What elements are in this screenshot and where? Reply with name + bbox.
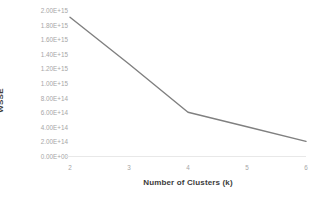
x-axis-line bbox=[66, 156, 306, 157]
y-axis-tick-label: 0.00E+00 bbox=[22, 153, 68, 160]
y-axis-tick-label: 2.00E+15 bbox=[22, 7, 68, 14]
line-chart: WSSE 0.00E+002.00E+144.00E+146.00E+148.0… bbox=[0, 0, 310, 201]
x-axis-tick-label: 4 bbox=[186, 163, 190, 172]
x-axis-title: Number of Clusters (k) bbox=[70, 178, 306, 187]
x-axis-tick-labels: 23456 bbox=[70, 163, 306, 175]
y-axis-tick-label: 1.00E+15 bbox=[22, 80, 68, 87]
y-axis-tick-label: 1.80E+15 bbox=[22, 21, 68, 28]
x-axis-tick-label: 3 bbox=[127, 163, 131, 172]
x-axis-tick-label: 6 bbox=[304, 163, 308, 172]
x-axis-tick-label: 2 bbox=[68, 163, 72, 172]
y-axis-tick-label: 8.00E+14 bbox=[22, 94, 68, 101]
plot-area bbox=[70, 10, 306, 156]
y-axis-tick-label: 4.00E+14 bbox=[22, 123, 68, 130]
x-axis-tick-label: 5 bbox=[245, 163, 249, 172]
y-axis-tick-label: 1.20E+15 bbox=[22, 65, 68, 72]
series-line-wsse bbox=[70, 10, 306, 156]
y-axis-tick-label: 1.40E+15 bbox=[22, 50, 68, 57]
y-axis-tick-label: 2.00E+14 bbox=[22, 138, 68, 145]
y-axis-tick-label: 6.00E+14 bbox=[22, 109, 68, 116]
y-axis-tick-labels: 0.00E+002.00E+144.00E+146.00E+148.00E+14… bbox=[22, 10, 68, 156]
wsse-line-path bbox=[70, 17, 306, 141]
y-axis-tick-label: 1.60E+15 bbox=[22, 36, 68, 43]
